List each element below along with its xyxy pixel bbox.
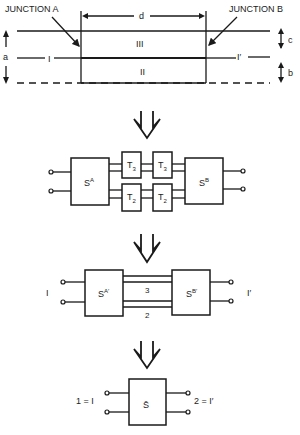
terminal-icon: [105, 391, 109, 395]
stage3-port-left-label: I: [46, 288, 49, 298]
transition-arrow-1-icon: [134, 111, 160, 138]
terminal-icon: [186, 410, 190, 414]
dim-b-arrowhead-down-icon: [278, 77, 284, 83]
port-left-label: I: [48, 54, 51, 64]
dim-c-arrowhead-down-icon: [278, 43, 284, 49]
block-s-bar-label: S̄: [143, 400, 149, 410]
terminal-icon: [49, 170, 53, 174]
dim-d-label: d: [139, 11, 144, 21]
terminal-icon: [49, 189, 53, 193]
stage4-port-left-label: 1 = I: [76, 396, 94, 406]
junction-b-label: JUNCTION B: [229, 4, 283, 14]
stage-4-two-port: 1 = I S̄ 2 = I′: [76, 379, 214, 425]
stage-1-cross-section: JUNCTION A JUNCTION B d I I′ III II a: [3, 4, 293, 84]
terminal-icon: [229, 280, 233, 284]
line-2-label: 2: [145, 311, 150, 320]
junction-a-label: JUNCTION A: [5, 4, 59, 14]
region-iii-label: III: [136, 39, 144, 49]
region-ii-label: II: [140, 67, 145, 77]
dim-d-arrowhead-right-icon: [199, 13, 205, 19]
terminal-icon: [186, 391, 190, 395]
stage4-port-right-label: 2 = I′: [194, 396, 214, 406]
stage3-port-right-label: I′: [247, 288, 252, 298]
transition-arrow-3-icon: [134, 341, 160, 368]
terminal-icon: [241, 187, 245, 191]
dim-a-label: a: [3, 52, 8, 62]
line-3-label: 3: [145, 286, 150, 295]
stage-3-network: I SA′ 3 2 SB′ I′: [46, 270, 252, 320]
transition-arrow-2-icon: [134, 234, 160, 262]
port-right-label: I′: [237, 52, 242, 62]
dim-b-arrowhead-up-icon: [278, 62, 284, 68]
waveguide-junction-diagram: JUNCTION A JUNCTION B d I I′ III II a: [0, 0, 300, 435]
stage-2-network: SA T3 T3 T2 T2 SB: [49, 152, 245, 211]
terminal-icon: [61, 280, 65, 284]
dim-c-arrowhead-up-icon: [278, 28, 284, 34]
dim-d-arrowhead-left-icon: [82, 13, 88, 19]
terminal-icon: [61, 300, 65, 304]
dim-a-arrowhead-up-icon: [3, 30, 9, 37]
dim-b-label: b: [288, 68, 293, 78]
terminal-icon: [241, 169, 245, 173]
terminal-icon: [229, 299, 233, 303]
terminal-icon: [105, 410, 109, 414]
dim-c-label: c: [288, 35, 293, 45]
dim-a-arrowhead-down-icon: [3, 77, 9, 84]
